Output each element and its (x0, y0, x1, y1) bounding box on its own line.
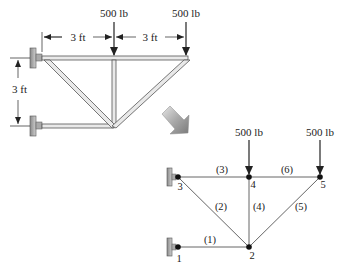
wall-support-bottom (30, 116, 42, 136)
element-label-4: (4) (253, 201, 266, 213)
load-label: 500 lb (306, 126, 334, 138)
fe-model: (1) (2) (3) (4) (5) (6) 500 lb 500 lb 1 … (167, 126, 334, 264)
dimension-label-right: 3 ft (143, 31, 158, 43)
node-2 (246, 244, 252, 250)
element-label-5: (5) (295, 201, 308, 213)
upper-load-middle: 500 lb (100, 7, 128, 55)
upper-load-right: 500 lb (172, 7, 200, 55)
node-1 (175, 244, 181, 250)
dimension-label-left: 3 ft (71, 31, 86, 43)
load-label: 500 lb (172, 7, 200, 19)
element-label-2: (2) (215, 201, 228, 213)
support-node-1 (167, 238, 176, 256)
element-5 (249, 177, 320, 247)
load-label: 500 lb (100, 7, 128, 19)
model-load-node-4: 500 lb (235, 126, 263, 174)
node-label-4: 4 (250, 179, 256, 190)
node-label-2: 2 (249, 250, 254, 261)
node-3 (175, 174, 181, 180)
dimension-label-vertical: 3 ft (12, 83, 27, 95)
load-label: 500 lb (235, 126, 263, 138)
element-label-6: (6) (281, 164, 294, 176)
model-load-node-5: 500 lb (306, 126, 334, 174)
dimension-horizontal (42, 32, 184, 52)
elements (178, 177, 320, 247)
node-label-5: 5 (320, 179, 325, 190)
node-label-3: 3 (177, 181, 182, 192)
wall-support-top (30, 48, 42, 68)
support-node-3 (167, 168, 176, 186)
arrow-down-right-icon (162, 106, 189, 134)
element-label-3: (3) (216, 164, 229, 176)
element-label-1: (1) (204, 234, 217, 246)
truss-diagram: 500 lb 500 lb 3 ft 3 ft 3 ft (0, 0, 343, 270)
node-label-1: 1 (176, 253, 181, 264)
